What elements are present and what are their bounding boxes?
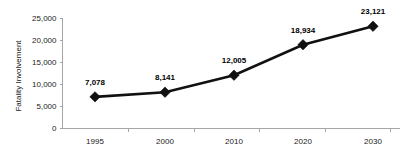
data-point-label: 7,078	[85, 78, 106, 87]
data-point-label: 18,934	[291, 26, 316, 35]
y-axis-ticks: 05,00010,00015,00020,00025,000	[32, 14, 62, 133]
x-tick-label: 2000	[156, 137, 174, 146]
data-point-marker	[160, 87, 170, 97]
x-tick-label: 1995	[86, 137, 104, 146]
y-tick-label: 25,000	[32, 14, 57, 23]
data-point-label: 8,141	[155, 73, 176, 82]
x-tick-label: 2020	[294, 137, 312, 146]
data-point-marker	[90, 92, 100, 102]
y-tick-label: 10,000	[32, 80, 57, 89]
y-tick-label: 20,000	[32, 36, 57, 45]
x-tick-label: 2030	[364, 137, 382, 146]
y-tick-label: 15,000	[32, 58, 57, 67]
y-tick-label: 0	[52, 124, 57, 133]
x-axis-labels: 19952000201020202030	[86, 137, 382, 146]
data-point-marker	[229, 70, 239, 80]
data-point-marker	[298, 39, 308, 49]
line-chart: Fatality Involvement 05,00010,00015,0002…	[0, 0, 418, 156]
x-tick-label: 2010	[225, 137, 243, 146]
chart-container: Fatality Involvement 05,00010,00015,0002…	[0, 0, 418, 156]
data-point-label: 12,005	[222, 56, 247, 65]
data-point-marker	[368, 21, 378, 31]
y-axis-title: Fatality Involvement	[14, 40, 23, 112]
data-point-label: 23,121	[361, 7, 386, 16]
y-axis-title-label: Fatality Involvement	[14, 40, 23, 112]
y-tick-label: 5,000	[36, 102, 57, 111]
